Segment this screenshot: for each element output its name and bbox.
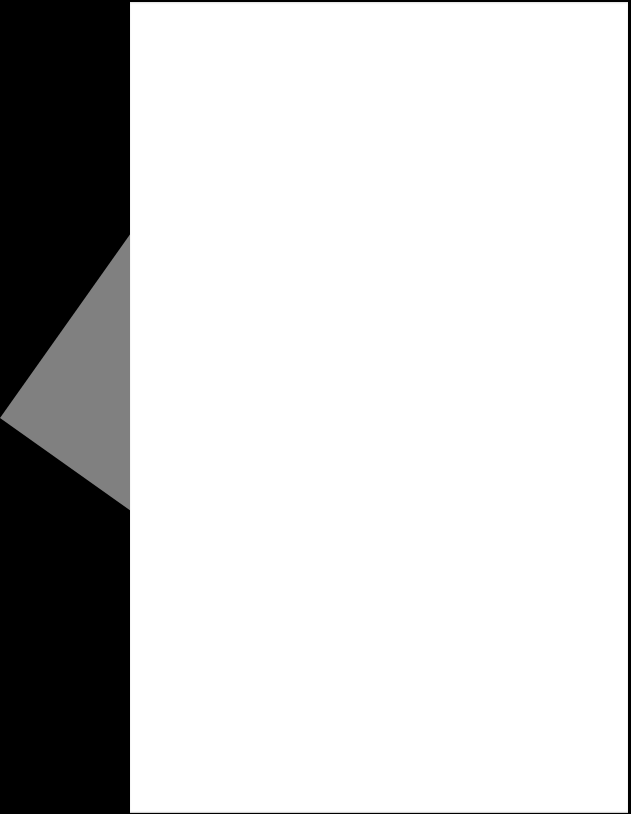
blank-paper-sheet [130,2,628,813]
